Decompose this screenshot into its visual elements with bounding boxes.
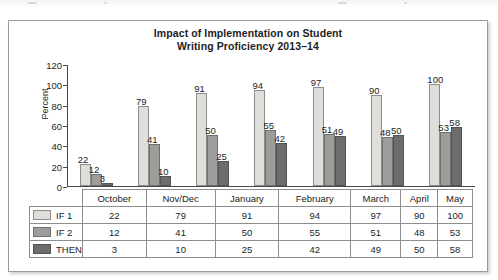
y-tick-label-40: 40 (32, 141, 67, 152)
bar: 50 (393, 135, 404, 186)
bar-group: 904850 (358, 95, 416, 187)
bar-value-label: 55 (263, 121, 274, 131)
bar-value-label: 91 (194, 84, 205, 94)
bar: 49 (335, 136, 346, 186)
table-column-header: Nov/Dec (146, 190, 215, 207)
bar: 51 (324, 134, 335, 186)
table-cell: 50 (215, 224, 279, 241)
table-cell: 42 (279, 241, 351, 258)
bar-value-label: 22 (78, 155, 89, 165)
table-cell: 3 (82, 241, 146, 258)
table-cell: 10 (146, 241, 215, 258)
bar: 25 (218, 161, 229, 186)
bar: 53 (440, 132, 451, 186)
bar-value-label: 100 (427, 75, 443, 85)
table-cell: 90 (401, 207, 438, 224)
bar: 3 (102, 183, 113, 186)
table-cell: 12 (82, 224, 146, 241)
table-row: IF 1227991949790100 (30, 207, 473, 224)
bar-value-label: 50 (205, 126, 216, 136)
bar-value-label: 25 (216, 152, 227, 162)
bar-value-label: 58 (449, 118, 460, 128)
table-column-header: February (279, 190, 351, 207)
table-cell: 97 (351, 207, 401, 224)
table-row: THEN3102542495058 (30, 241, 473, 258)
legend-series-name: IF 2 (56, 227, 72, 238)
bar-group: 794110 (125, 106, 183, 186)
legend-series-name: IF 1 (56, 210, 72, 221)
y-tick-mark-120 (63, 65, 67, 66)
table-cell: 48 (401, 224, 438, 241)
bar-value-label: 94 (252, 81, 263, 91)
table-cell: 25 (215, 241, 279, 258)
table-cell: 55 (279, 224, 351, 241)
table-column-header: April (401, 190, 438, 207)
bar-group: 945542 (242, 90, 300, 186)
bar-value-label: 49 (333, 127, 344, 137)
table-corner-cell (30, 190, 83, 207)
table-cell: 41 (146, 224, 215, 241)
legend-row-label: IF 2 (30, 224, 83, 241)
bar: 48 (382, 137, 393, 186)
bar: 97 (313, 87, 324, 186)
bar-value-label: 90 (369, 86, 380, 96)
bar-value-label: 10 (158, 167, 169, 177)
y-tick-label-80: 80 (32, 100, 67, 111)
bar-value-label: 12 (89, 165, 100, 175)
y-tick-mark-60 (63, 126, 67, 127)
y-tick-mark-80 (63, 106, 67, 107)
legend-swatch-icon (33, 210, 51, 220)
table-cell: 100 (438, 207, 473, 224)
bar-value-label: 42 (274, 134, 285, 144)
bar-group: 975149 (300, 87, 358, 186)
bar-group: 1005358 (417, 84, 475, 186)
table-cell: 53 (438, 224, 473, 241)
bar: 58 (451, 127, 462, 186)
bar-value-label: 97 (311, 78, 322, 88)
bar: 91 (196, 93, 207, 186)
bar: 94 (254, 90, 265, 186)
table-body: IF 1227991949790100IF 212415055514853THE… (30, 207, 473, 258)
y-tick-label-60: 60 (32, 121, 67, 132)
legend-row-label: IF 1 (30, 207, 83, 224)
y-tick-mark-0 (63, 187, 67, 188)
legend-swatch-icon (33, 244, 51, 254)
bar: 42 (276, 143, 287, 186)
scan-artifact (0, 0, 498, 8)
bar-value-label: 51 (322, 125, 333, 135)
table-column-header: May (438, 190, 473, 207)
table-cell: 58 (438, 241, 473, 258)
legend-swatch-icon (33, 227, 51, 237)
bar: 100 (429, 84, 440, 186)
bar-value-label: 50 (391, 126, 402, 136)
table-cell: 94 (279, 207, 351, 224)
data-table: OctoberNov/DecJanuaryFebruaryMarchAprilM… (29, 189, 473, 258)
table-column-header: March (351, 190, 401, 207)
chart-title-line-1: Impact of Implementation on Student (9, 27, 487, 40)
table-column-header: January (215, 190, 279, 207)
bar-value-label: 41 (147, 135, 158, 145)
legend-series-name: THEN (56, 244, 82, 255)
bar-value-label: 3 (100, 174, 105, 184)
table-cell: 50 (401, 241, 438, 258)
bar-value-label: 53 (438, 123, 449, 133)
y-tick-label-20: 20 (32, 161, 67, 172)
chart-title-line-2: Writing Proficiency 2013–14 (9, 40, 487, 53)
y-tick-mark-100 (63, 85, 67, 86)
table-cell: 22 (82, 207, 146, 224)
y-tick-label-100: 100 (32, 80, 67, 91)
bar-group: 915025 (184, 93, 242, 186)
bar-group: 22123 (67, 164, 125, 186)
y-tick-mark-40 (63, 146, 67, 147)
y-tick-label-120: 120 (32, 60, 67, 71)
table-row: IF 212415055514853 (30, 224, 473, 241)
x-axis-line (67, 186, 475, 187)
bar-value-label: 48 (380, 128, 391, 138)
plot-area: Percent 020406080100120 2212379411091502… (67, 65, 475, 187)
bar: 10 (160, 176, 171, 186)
table-column-header: October (82, 190, 146, 207)
table-header-row: OctoberNov/DecJanuaryFebruaryMarchAprilM… (30, 190, 473, 207)
bar-value-label: 79 (136, 97, 147, 107)
table-cell: 49 (351, 241, 401, 258)
table-cell: 91 (215, 207, 279, 224)
